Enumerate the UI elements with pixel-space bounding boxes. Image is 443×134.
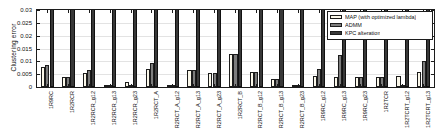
x-category-label: R2RCT_B_g13 xyxy=(278,91,284,134)
x-category-label: 1R9RC_g23 xyxy=(362,91,368,134)
x-tick-mark xyxy=(172,10,173,13)
legend-label: KPC alteration xyxy=(345,30,380,36)
x-tick-mark xyxy=(110,84,111,87)
y-tick-mark xyxy=(37,87,40,88)
y-tick-mark xyxy=(431,87,434,88)
x-category-label: R2RCT_A_g13 xyxy=(195,91,201,134)
x-tick-mark xyxy=(319,10,320,13)
bar xyxy=(133,10,137,87)
y-tick-label: 0.01 xyxy=(6,58,32,64)
x-tick-mark xyxy=(402,84,403,87)
y-tick-label: 0 xyxy=(6,84,32,90)
x-tick-mark xyxy=(360,84,361,87)
bar xyxy=(321,10,325,87)
clustering-error-bar-chart: Clustering error MAP (with optimized lam… xyxy=(0,0,443,134)
bar xyxy=(217,10,221,87)
gridline xyxy=(37,49,434,50)
y-tick-mark xyxy=(431,49,434,50)
bar xyxy=(50,10,54,87)
x-tick-mark xyxy=(277,10,278,13)
x-category-label: 1R2RCT_A xyxy=(153,91,159,134)
x-category-label: R2RCT_B_g12 xyxy=(257,91,263,134)
bar xyxy=(259,10,263,87)
y-tick-mark xyxy=(431,61,434,62)
x-tick-mark xyxy=(193,84,194,87)
x-tick-mark xyxy=(131,84,132,87)
x-tick-mark xyxy=(89,84,90,87)
x-tick-mark xyxy=(68,10,69,13)
x-tick-mark xyxy=(172,84,173,87)
legend-label: ADMM xyxy=(345,22,362,28)
y-tick-label: 0.03 xyxy=(6,7,32,13)
legend-swatch xyxy=(330,23,342,27)
y-tick-mark xyxy=(431,74,434,75)
x-tick-mark xyxy=(193,10,194,13)
plot-area: MAP (with optimized lambda)ADMMKPC alter… xyxy=(36,9,435,88)
y-tick-mark xyxy=(37,10,40,11)
y-tick-mark xyxy=(37,23,40,24)
x-tick-mark xyxy=(256,84,257,87)
x-category-label: R2RCT_B_g23 xyxy=(299,91,305,134)
y-tick-label: 0.005 xyxy=(6,71,32,77)
x-category-label: 1R2RCR xyxy=(69,91,75,134)
x-tick-mark xyxy=(277,84,278,87)
x-tick-mark xyxy=(235,10,236,13)
legend: MAP (with optimized lambda)ADMMKPC alter… xyxy=(327,11,433,40)
x-category-label: 1R2TCRT_g13 xyxy=(425,91,431,134)
x-tick-mark xyxy=(298,10,299,13)
x-category-label: 1R9RC_g12 xyxy=(320,91,326,134)
x-tick-mark xyxy=(214,84,215,87)
x-category-label: R2RCT_A_g12 xyxy=(174,91,180,134)
bar xyxy=(300,10,304,87)
x-category-label: 1R9RC_g13 xyxy=(341,91,347,134)
legend-label: MAP (with optimized lambda) xyxy=(345,14,416,20)
x-tick-mark xyxy=(47,84,48,87)
x-tick-mark xyxy=(381,84,382,87)
y-tick-label: 0.02 xyxy=(6,33,32,39)
bar xyxy=(154,10,158,87)
x-category-label: 1R2RCR_g12 xyxy=(90,91,96,134)
y-tick-label: 0.025 xyxy=(6,20,32,26)
y-tick-label: 0.015 xyxy=(6,46,32,52)
x-category-label: 1R2TCR xyxy=(383,91,389,134)
x-tick-mark xyxy=(110,10,111,13)
x-tick-mark xyxy=(151,84,152,87)
x-category-label: 1R2RCR_g23 xyxy=(132,91,138,134)
bar xyxy=(91,10,95,87)
bar xyxy=(196,10,200,87)
x-tick-mark xyxy=(47,10,48,13)
x-category-label: 1R2RCR_g13 xyxy=(111,91,117,134)
x-tick-mark xyxy=(131,10,132,13)
y-tick-mark xyxy=(37,74,40,75)
bar xyxy=(238,10,242,87)
bar xyxy=(175,10,179,87)
legend-swatch xyxy=(330,15,342,19)
y-tick-mark xyxy=(37,61,40,62)
x-tick-mark xyxy=(151,10,152,13)
x-tick-mark xyxy=(89,10,90,13)
x-category-label: R2RCT_A_g23 xyxy=(216,91,222,134)
legend-row: MAP (with optimized lambda) xyxy=(330,13,430,21)
legend-row: ADMM xyxy=(330,21,430,29)
bar xyxy=(70,10,74,87)
x-tick-mark xyxy=(319,84,320,87)
x-tick-mark xyxy=(214,10,215,13)
x-tick-mark xyxy=(235,84,236,87)
bar xyxy=(279,10,283,87)
y-tick-mark xyxy=(37,36,40,37)
bar xyxy=(112,10,116,87)
x-category-label: 1R2RCT_B xyxy=(237,91,243,134)
legend-row: KPC alteration xyxy=(330,29,430,37)
x-tick-mark xyxy=(298,84,299,87)
x-tick-mark xyxy=(256,10,257,13)
x-category-label: 1R2TCRT_g12 xyxy=(404,91,410,134)
x-tick-mark xyxy=(423,84,424,87)
legend-swatch xyxy=(330,31,342,35)
x-tick-mark xyxy=(68,84,69,87)
x-category-label: 1R9RC xyxy=(48,91,54,134)
y-tick-mark xyxy=(37,49,40,50)
x-tick-mark xyxy=(340,84,341,87)
